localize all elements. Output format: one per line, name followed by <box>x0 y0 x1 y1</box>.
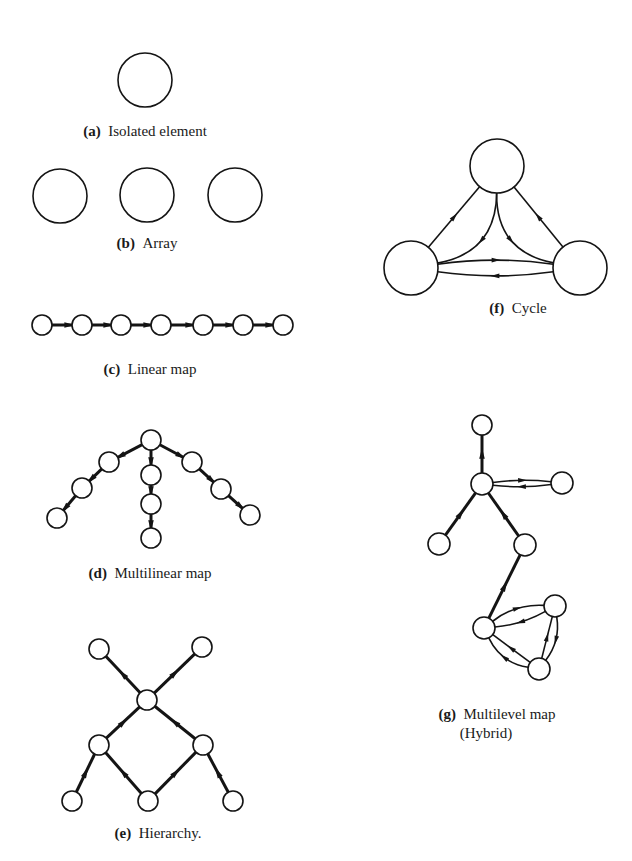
node-g-5 <box>473 617 495 639</box>
node-e-0 <box>89 639 109 659</box>
caption-text: Cycle <box>512 300 547 316</box>
arrowhead-icon <box>512 607 521 612</box>
caption-g-line1: (Hybrid) <box>460 725 513 742</box>
arrowhead-icon <box>516 619 525 624</box>
node-f-1 <box>384 241 438 295</box>
node-c-5 <box>233 315 253 335</box>
node-d-0 <box>141 430 161 450</box>
caption-a: (a) Isolated element <box>83 123 208 140</box>
node-d-2 <box>72 478 92 498</box>
node-d-6 <box>141 528 161 548</box>
node-f-2 <box>553 241 607 295</box>
caption-text: Multilevel map <box>463 706 555 722</box>
caption-b: (b) Array <box>117 235 178 252</box>
node-c-2 <box>111 315 131 335</box>
caption-text: Linear map <box>128 361 197 377</box>
caption-tag: (b) <box>117 235 143 252</box>
caption-g: (g) Multilevel map <box>438 706 555 723</box>
panel-e-hierarchy: (e) Hierarchy. <box>62 637 243 842</box>
node-b-0 <box>33 169 87 223</box>
node-c-1 <box>72 315 92 335</box>
edge-g-11 <box>489 638 528 667</box>
node-d-1 <box>99 452 119 472</box>
node-g-2 <box>551 472 573 494</box>
panel-d-multilinear-map: (d) Multilinear map <box>47 430 260 582</box>
caption-tag: (e) <box>115 825 139 842</box>
arrowhead-icon <box>555 635 559 644</box>
caption-e: (e) Hierarchy. <box>115 825 202 842</box>
node-g-4 <box>514 534 536 556</box>
panel-g-multilevel-map: (g) Multilevel map(Hybrid) <box>428 415 573 742</box>
node-e-6 <box>138 791 158 811</box>
caption-c: (c) Linear map <box>104 361 197 378</box>
caption-tag: (c) <box>104 361 128 378</box>
arrowhead-icon <box>518 478 527 483</box>
caption-tag: (g) <box>438 706 463 723</box>
node-f-0 <box>470 139 524 193</box>
edge-g-7 <box>495 611 545 627</box>
node-d-3 <box>47 508 67 528</box>
edge-f-2 <box>438 193 497 263</box>
node-e-7 <box>223 791 243 811</box>
node-e-3 <box>89 735 109 755</box>
node-e-4 <box>193 735 213 755</box>
node-e-1 <box>192 637 212 657</box>
node-d-9 <box>240 505 260 525</box>
node-c-3 <box>151 315 171 335</box>
node-g-6 <box>544 595 566 617</box>
arrowhead-icon <box>491 274 500 279</box>
caption-d: (d) Multilinear map <box>89 565 212 582</box>
caption-text: Multilinear map <box>114 565 211 581</box>
node-g-3 <box>428 533 450 555</box>
node-g-0 <box>472 415 492 435</box>
node-c-0 <box>32 315 52 335</box>
caption-tag: (a) <box>83 123 108 140</box>
panel-c-linear-map: (c) Linear map <box>32 315 293 378</box>
arrowhead-icon <box>544 633 548 642</box>
node-d-5 <box>141 494 161 514</box>
caption-text: Hierarchy. <box>139 825 202 841</box>
node-e-5 <box>62 791 82 811</box>
node-d-4 <box>141 465 161 485</box>
node-b-2 <box>208 168 262 222</box>
node-g-1 <box>471 473 493 495</box>
panel-a-isolated-element: (a) Isolated element <box>83 53 208 140</box>
arrowhead-icon <box>492 258 501 263</box>
caption-f: (f) Cycle <box>489 300 547 317</box>
node-a-0 <box>118 53 172 107</box>
node-e-2 <box>137 690 157 710</box>
node-b-1 <box>120 168 174 222</box>
arrowhead-icon <box>517 484 526 489</box>
node-d-7 <box>182 452 202 472</box>
caption-tag: (d) <box>89 565 115 582</box>
panel-b-array: (b) Array <box>33 168 262 252</box>
caption-tag: (f) <box>489 300 512 317</box>
node-g-7 <box>528 658 550 680</box>
caption-text: (Hybrid) <box>460 725 513 742</box>
arrowhead-icon <box>479 448 485 459</box>
caption-text: Array <box>142 235 177 251</box>
diagram-canvas: (a) Isolated element (b) Array (c) Linea… <box>0 0 632 861</box>
edge-f-3 <box>497 193 554 263</box>
panel-f-cycle: (f) Cycle <box>384 139 607 317</box>
node-d-8 <box>211 479 231 499</box>
node-c-6 <box>273 315 293 335</box>
caption-text: Isolated element <box>108 123 208 139</box>
node-c-4 <box>193 315 213 335</box>
